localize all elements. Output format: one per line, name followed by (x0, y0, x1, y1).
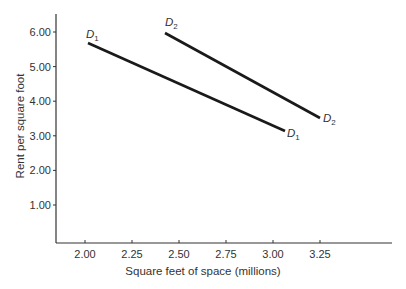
y-tick-label: 6.00 (30, 26, 51, 38)
y-tick-label: 4.00 (30, 95, 51, 107)
d1-demand-line (88, 43, 285, 131)
d1-start-label: D1 (86, 28, 99, 43)
d2-demand-line (165, 33, 320, 118)
demand-chart: 1.00 2.00 3.00 4.00 5.00 6.00 2.00 2.25 … (0, 0, 406, 289)
x-tick-label: 2.00 (74, 248, 95, 260)
x-tick-label: 3.00 (262, 248, 283, 260)
y-tick-label: 3.00 (30, 130, 51, 142)
y-tick-label: 2.00 (30, 164, 51, 176)
d1-end-label: D1 (287, 127, 300, 142)
x-tick-label: 3.25 (309, 248, 330, 260)
y-ticks: 1.00 2.00 3.00 4.00 5.00 6.00 (30, 26, 56, 211)
x-tick-label: 2.50 (168, 248, 189, 260)
y-tick-label: 5.00 (30, 61, 51, 73)
d2-start-label: D2 (165, 16, 178, 31)
d2-end-label: D2 (323, 112, 336, 127)
y-axis-label: Rent per square foot (14, 73, 26, 179)
x-axis-label: Square feet of space (millions) (125, 265, 280, 277)
x-tick-label: 2.75 (215, 248, 236, 260)
x-tick-label: 2.25 (121, 248, 142, 260)
y-tick-label: 1.00 (30, 199, 51, 211)
